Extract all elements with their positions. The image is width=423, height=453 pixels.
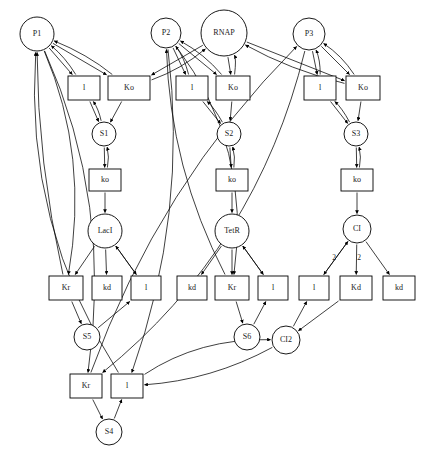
diagram-canvas: P1P2RNAPP3S1S2S3LacITetRCIS5S6CI2S4lKolK… (0, 0, 423, 453)
place-label: S4 (105, 427, 113, 436)
edge-t_ko2-to-S2 (233, 147, 235, 168)
edge-t_Ko3-to-S3 (358, 102, 361, 121)
edge-P1-to-t_Ko1 (53, 43, 107, 74)
edge-t_Ko2-to-RNAP (234, 55, 235, 74)
place-label: RNAP (213, 28, 235, 37)
place-S2[interactable]: S2 (217, 122, 241, 146)
edge-t_l5-to-TetR (243, 246, 263, 274)
place-LacI[interactable]: LacI (88, 214, 122, 248)
transition-label: Kr (228, 283, 237, 292)
transition-t_l5[interactable]: l (258, 276, 288, 300)
edge-multiplicity-label: 2 (332, 253, 336, 262)
place-label: P2 (162, 28, 170, 37)
edge-P3-to-t_Ko3 (321, 46, 349, 74)
edge-CI-to-t_kd3 (366, 242, 389, 275)
edge-LacI-to-t_Kr1 (75, 246, 94, 274)
transition-t_Kr2[interactable]: Kr (215, 276, 249, 300)
transition-label: ko (101, 175, 109, 184)
transition-t_Ko2[interactable]: Ko (216, 76, 250, 100)
place-S5[interactable]: S5 (74, 324, 100, 350)
transition-t_l6[interactable]: l (299, 276, 329, 300)
transition-label: Ko (358, 83, 368, 92)
place-S3[interactable]: S3 (344, 122, 368, 146)
place-RNAP[interactable]: RNAP (201, 10, 247, 56)
transition-t_l7[interactable]: l (111, 374, 143, 398)
transition-t_ko3[interactable]: ko (341, 169, 373, 191)
edge-t_Ko1-to-P1 (54, 41, 112, 75)
place-CI[interactable]: CI (343, 215, 371, 243)
edge-S6-to-t_l5 (254, 302, 266, 325)
place-label: S2 (225, 129, 233, 138)
transition-label: Ko (124, 83, 134, 92)
transition-label: Kd (351, 283, 361, 292)
edge-LacI-to-t_kd1 (106, 249, 107, 274)
edge-P3-to-t_l3 (312, 51, 317, 74)
edge-t_l2-to-P2 (176, 46, 189, 74)
edge-t_Kr2-to-S6 (236, 302, 243, 324)
place-label: S1 (100, 129, 108, 138)
edge-t_l1-to-S1 (90, 102, 99, 122)
edge-t_Ko2-to-S2 (230, 102, 232, 121)
edge-CI2-to-t_l7 (145, 347, 273, 384)
edge-t_ko3-to-S3 (359, 147, 360, 167)
place-S1[interactable]: S1 (92, 122, 116, 146)
edge-t_l3-to-S3 (331, 102, 348, 124)
place-S6[interactable]: S6 (234, 324, 260, 350)
transition-t_l3[interactable]: l (304, 76, 336, 100)
transition-t_l4[interactable]: l (131, 276, 161, 300)
transition-label: kd (103, 283, 111, 292)
place-P3[interactable]: P3 (293, 18, 325, 50)
edge-t_ko1-to-S1 (107, 147, 108, 167)
transition-label: kd (395, 283, 403, 292)
transition-t_ko1[interactable]: ko (89, 169, 121, 191)
place-S4[interactable]: S4 (96, 419, 122, 445)
network-graph: P1P2RNAPP3S1S2S3LacITetRCIS5S6CI2S4lKolK… (0, 0, 423, 453)
place-label: S5 (83, 332, 91, 341)
place-label: S6 (243, 332, 251, 341)
place-P1[interactable]: P1 (20, 17, 54, 51)
edge-S4-to-t_l7 (114, 400, 121, 419)
place-CI2[interactable]: CI2 (272, 326, 300, 354)
node-layer: P1P2RNAPP3S1S2S3LacITetRCIS5S6CI2S4lKolK… (20, 10, 415, 445)
transition-t_kd3[interactable]: kd (383, 276, 415, 300)
place-label: LacI (98, 226, 113, 235)
transition-t_Kr3[interactable]: Kr (70, 374, 102, 398)
place-label: CI (353, 224, 361, 233)
edge-P1-to-t_l1 (49, 48, 72, 75)
edge-t_Ko1-to-S1 (110, 102, 121, 123)
place-label: CI2 (280, 335, 292, 344)
edge-t_Kr3-to-S4 (93, 400, 103, 420)
edge-t_Kr1-to-S5 (72, 302, 82, 324)
transition-t_l2[interactable]: l (176, 76, 208, 100)
place-label: TetR (224, 226, 240, 235)
edge-CI2-to-t_l6 (293, 302, 306, 327)
place-TetR[interactable]: TetR (215, 214, 249, 248)
transition-t_Kr1[interactable]: Kr (49, 276, 83, 300)
transition-label: Kr (82, 381, 91, 390)
transition-t_l1[interactable]: l (68, 76, 100, 100)
transition-label: ko (228, 175, 236, 184)
edge-RNAP-to-t_Ko2 (228, 57, 231, 74)
place-label: P3 (305, 29, 313, 38)
place-label: P1 (33, 29, 41, 38)
transition-label: Kr (62, 283, 71, 292)
edge-TetR-to-t_kd2 (201, 246, 221, 274)
edge-t_l7-to-P1 (34, 52, 118, 372)
transition-label: Ko (228, 83, 238, 92)
edge-multiplicity-label: 2 (357, 253, 361, 262)
transition-label: ko (353, 175, 361, 184)
transition-label: kd (188, 283, 196, 292)
edge-t_Ko1-to-RNAP (152, 49, 206, 80)
transition-t_kd1[interactable]: kd (92, 276, 122, 300)
transition-t_Kd1[interactable]: Kd (340, 276, 372, 300)
edge-t_l1-to-P1 (51, 46, 75, 75)
edge-t_l4-to-LacI (116, 246, 136, 274)
place-P2[interactable]: P2 (151, 18, 181, 48)
transition-t_kd2[interactable]: kd (177, 276, 207, 300)
transition-t_Ko1[interactable]: Ko (108, 76, 150, 100)
transition-t_ko2[interactable]: ko (216, 169, 248, 191)
edge-S3-to-t_l3 (335, 102, 350, 123)
edge-t_Ko3-to-P3 (324, 44, 355, 75)
transition-t_Ko3[interactable]: Ko (346, 76, 380, 100)
place-label: S3 (352, 129, 360, 138)
